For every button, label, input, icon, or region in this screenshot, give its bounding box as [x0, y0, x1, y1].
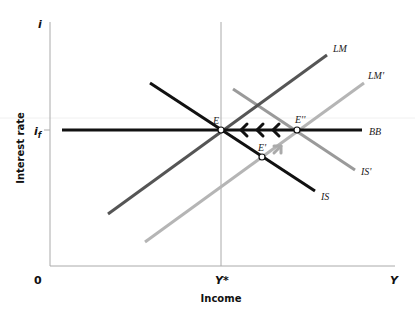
x-axis-title: Income [201, 293, 242, 304]
label-is: IS [320, 191, 329, 202]
y-axis-symbol: i [38, 18, 42, 31]
point-e-prime [259, 154, 265, 160]
label-is-prime: IS' [360, 166, 372, 177]
label-e: E [212, 115, 219, 126]
label-e-prime: E' [257, 142, 267, 153]
label-bb: BB [369, 126, 381, 137]
label-lm-prime: LM' [367, 70, 385, 81]
is-lm-bb-diagram: E E' E'' LM LM' BB IS' IS i if 0 Y* Y In… [0, 0, 415, 317]
if-label: if [34, 125, 43, 140]
label-lm: LM [332, 43, 348, 54]
ystar-label: Y* [215, 274, 229, 287]
label-e-double-prime: E'' [294, 114, 306, 125]
origin-label: 0 [34, 274, 42, 287]
lm-shift-arrow-icon [274, 146, 281, 153]
y-axis-title: Interest rate [15, 112, 26, 184]
x-axis-symbol: Y [390, 274, 399, 287]
point-e [218, 127, 224, 133]
point-e-double-prime [294, 127, 300, 133]
